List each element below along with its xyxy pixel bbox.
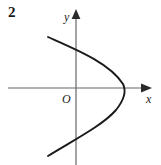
y-axis-arrowhead-icon [72, 9, 81, 19]
origin-label: O [62, 92, 71, 106]
figure-container: 2 y x O [0, 0, 161, 165]
y-axis-label: y [63, 10, 70, 24]
coordinate-plot: y x O [0, 0, 161, 165]
parabola-curve [48, 37, 125, 156]
x-axis-label: x [145, 92, 152, 106]
